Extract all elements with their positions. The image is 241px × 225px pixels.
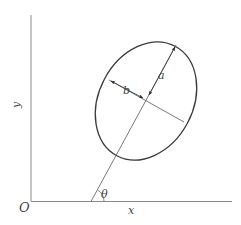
ellipse-diagram: O x y a b θ bbox=[0, 0, 241, 225]
semi-major-label: a bbox=[158, 69, 165, 82]
theta-label: θ bbox=[101, 188, 108, 201]
y-axis-label: y bbox=[10, 101, 23, 109]
semi-minor-label: b bbox=[123, 84, 130, 97]
origin-label: O bbox=[19, 200, 30, 215]
x-axis-label: x bbox=[128, 204, 135, 217]
